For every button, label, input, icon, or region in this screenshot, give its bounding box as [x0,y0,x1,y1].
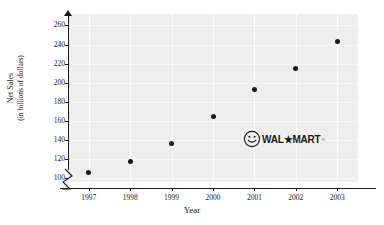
x-axis-tick-mark [89,188,90,191]
walmart-logo-annotation: WAL★MART ® [243,130,324,148]
data-point [293,66,298,71]
x-axis-tick-mark [337,188,338,191]
y-axis-tick-label: 200 [43,79,65,87]
data-point [335,39,340,44]
x-axis-tick-label: 1998 [110,193,150,202]
x-axis-tick-mark [130,188,131,191]
gridline-vertical [172,14,173,182]
x-axis-tick-label: 2003 [317,193,357,202]
y-axis-tick-label: 180 [43,98,65,106]
y-axis-tick-labels: 260240220200180160140120100 [42,0,65,225]
x-axis-tick-mark [172,188,173,191]
gridline-vertical [89,14,90,182]
y-axis-tick-mark [65,45,69,46]
y-axis-tick-label: 260 [43,21,65,29]
gridline-vertical [130,14,131,182]
smiley-face-icon [243,130,261,148]
y-axis-tick-label: 140 [43,136,65,144]
data-point [211,114,216,119]
x-axis-tick-mark [254,188,255,191]
y-axis-tick-label: 160 [43,117,65,125]
gridline-vertical [296,14,297,182]
y-axis-tick-mark [65,121,69,122]
y-axis-tick-mark [65,64,69,65]
y-axis-tick-mark [65,178,69,179]
y-axis-tick-mark [65,140,69,141]
y-axis-title-line2: (in billions of dollars) [16,28,26,148]
x-axis-tick-label: 1999 [152,193,192,202]
x-axis-tick-label: 2000 [193,193,233,202]
data-point [169,141,174,146]
data-point [128,159,133,164]
y-axis-tick-label: 100 [43,174,65,182]
gridline-vertical [254,14,255,182]
x-axis-tick-label: 2002 [276,193,316,202]
y-axis-line [68,12,69,170]
x-axis-line [60,188,376,189]
y-axis-tick-label: 120 [43,155,65,163]
y-axis-tick-label: 220 [43,60,65,68]
x-axis-tick-label: 1997 [69,193,109,202]
walmart-wordmark: WAL★MART [262,134,321,145]
y-axis-title: Net Sales (in billions of dollars) [6,28,26,148]
walmart-trademark-symbol: ® [322,137,325,142]
plot-area [68,14,358,182]
net-sales-scatter-chart: 260240220200180160140120100 Net Sales (i… [0,0,384,225]
gridline-vertical [213,14,214,182]
x-axis-title: Year [0,205,384,215]
y-axis-title-line1: Net Sales [6,28,16,148]
y-axis-tick-label: 240 [43,41,65,49]
y-axis-tick-mark [65,159,69,160]
x-axis-tick-label: 2001 [234,193,274,202]
y-axis-tick-mark [65,83,69,84]
x-axis-tick-mark [296,188,297,191]
data-point [86,170,91,175]
y-axis-tick-mark [65,102,69,103]
data-point [252,87,257,92]
y-axis-tick-mark [65,25,69,26]
x-axis-tick-mark [213,188,214,191]
